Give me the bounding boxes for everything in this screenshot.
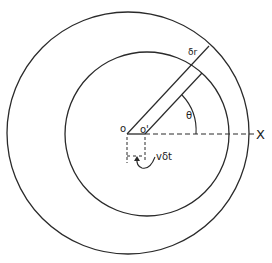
- label-shifted-origin: o': [140, 124, 149, 135]
- label-axis: X: [256, 127, 265, 142]
- curved-arrow: [137, 157, 155, 168]
- label-radial-increment: δr: [188, 47, 198, 57]
- wavefront-diagram: o o' δr θ X vδt: [0, 0, 272, 263]
- label-displacement: vδt: [156, 151, 172, 162]
- label-origin: o: [120, 123, 126, 134]
- arrow-head-icon: [134, 156, 140, 161]
- label-angle: θ: [186, 110, 192, 121]
- radius-line-from-o-prime: [145, 73, 202, 134]
- radius-line-from-o: [127, 46, 209, 134]
- diagram-canvas: o o' δr θ X vδt: [0, 0, 272, 263]
